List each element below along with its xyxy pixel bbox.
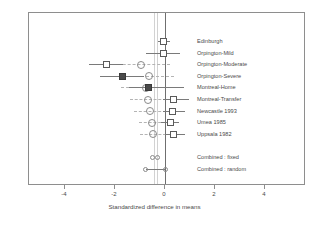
x-tick-label-1: -2 [111, 191, 116, 197]
combined-label: Combined : random [197, 166, 246, 172]
study-label-4: Montreal-Home [197, 84, 236, 90]
study-estimate-marker [160, 50, 167, 57]
study-estimate-marker [167, 119, 174, 126]
x-tick-label-4: 4 [262, 191, 265, 197]
x-tick-4 [264, 185, 265, 189]
secondary-estimate-marker [145, 72, 153, 80]
forest-plot: Citation EdinburghOrpington-MildOrpingto… [0, 0, 309, 227]
secondary-estimate-marker [146, 107, 154, 115]
study-estimate-marker [169, 108, 176, 115]
secondary-estimate-marker [149, 130, 157, 138]
study-estimate-marker [103, 61, 110, 68]
plot-frame: EdinburghOrpington-MildOrpington-Moderat… [28, 12, 305, 185]
x-tick-0 [64, 185, 65, 189]
combined-label: Combined : fixed [197, 154, 239, 160]
x-tick-label-3: 2 [212, 191, 215, 197]
study-label-5: Montreal-Transfer [197, 96, 241, 102]
study-label-8: Uppsala 1982 [197, 131, 232, 137]
combined-random-marker-0 [143, 167, 148, 172]
x-tick-2 [164, 185, 165, 189]
study-estimate-marker [170, 96, 177, 103]
study-label-1: Orpington-Mild [197, 50, 234, 56]
forest-row [29, 128, 304, 142]
x-tick-label-0: -4 [61, 191, 66, 197]
forest-row [29, 163, 304, 177]
study-estimate-marker [145, 84, 152, 91]
combined-fixed-marker-1 [155, 155, 160, 160]
secondary-estimate-marker [144, 96, 152, 104]
combined-fixed-marker-0 [150, 155, 155, 160]
secondary-estimate-marker [137, 61, 145, 69]
study-label-6: Newcastle 1993 [197, 108, 237, 114]
study-label-2: Orpington-Moderate [197, 61, 247, 67]
study-estimate-marker [170, 131, 177, 138]
study-label-3: Orpington-Severe [197, 73, 241, 79]
x-tick-3 [214, 185, 215, 189]
study-label-7: Umea 1985 [197, 119, 226, 125]
x-axis-title: Standardized difference in means [0, 203, 309, 210]
combined-random-marker-1 [163, 167, 168, 172]
plot-area: EdinburghOrpington-MildOrpington-Moderat… [29, 13, 304, 184]
x-tick-label-2: 0 [162, 191, 165, 197]
secondary-estimate-marker [148, 119, 156, 127]
confidence-interval [129, 87, 184, 88]
study-estimate-marker [119, 73, 126, 80]
x-tick-1 [114, 185, 115, 189]
study-label-0: Edinburgh [197, 38, 223, 44]
study-estimate-marker [160, 38, 167, 45]
